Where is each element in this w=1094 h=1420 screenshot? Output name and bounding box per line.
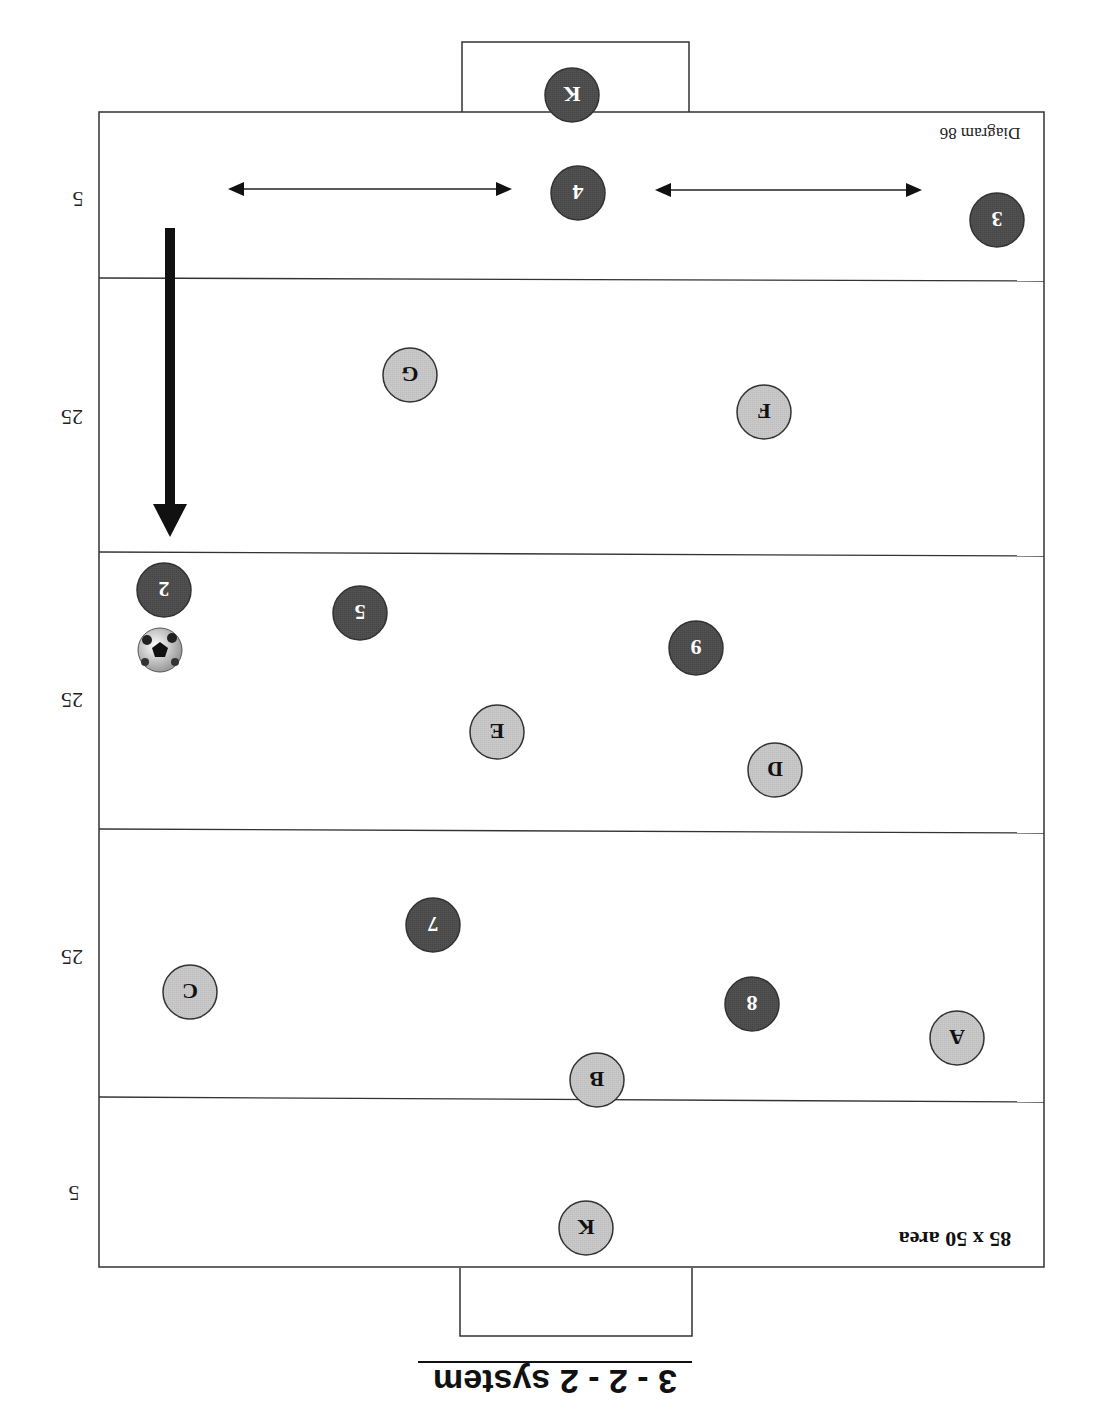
dark-player-4: 4 <box>551 166 605 220</box>
light-player-d: D <box>748 743 802 797</box>
zone-line-4 <box>99 1097 1044 1102</box>
player-label: 7 <box>428 912 439 937</box>
bottom-goal <box>460 1268 692 1336</box>
light-player-k: K <box>559 1201 613 1255</box>
player-label: A <box>949 1025 965 1050</box>
player-label: F <box>757 399 770 424</box>
player-label: K <box>577 1215 594 1240</box>
area-size-label: 85 x 50 area <box>899 1227 1012 1252</box>
zone-label-25-c: 25 <box>61 945 83 970</box>
player-label: 3 <box>992 207 1003 232</box>
zone-label-5-top: 5 <box>73 187 84 212</box>
player-label: B <box>589 1067 604 1092</box>
soccer-field-diagram: 5 25 25 25 5 Diagram 86 85 x 50 area 3 -… <box>0 0 1094 1420</box>
player-label: E <box>490 719 505 744</box>
dark-team: K4325978 <box>137 68 1024 1031</box>
double-arrow-left <box>228 182 512 196</box>
dark-player-9: 9 <box>669 621 723 675</box>
player-label: C <box>182 979 198 1004</box>
light-player-f: F <box>737 385 791 439</box>
light-player-a: A <box>930 1011 984 1065</box>
zone-label-25-a: 25 <box>61 405 83 430</box>
player-label: 8 <box>747 991 758 1016</box>
player-label: 5 <box>355 600 366 625</box>
zone-label-25-b: 25 <box>61 688 83 713</box>
player-label: G <box>401 362 418 387</box>
dark-player-k: K <box>545 68 599 122</box>
dark-player-7: 7 <box>406 898 460 952</box>
diagram-title: 3 - 2 - 2 system <box>433 1363 677 1401</box>
dark-player-5: 5 <box>333 586 387 640</box>
run-arrow <box>153 228 187 537</box>
player-label: 9 <box>691 635 702 660</box>
light-player-b: B <box>570 1053 624 1107</box>
light-player-c: C <box>163 965 217 1019</box>
double-arrow-right <box>655 183 922 197</box>
light-player-g: G <box>383 348 437 402</box>
player-label: K <box>563 82 580 107</box>
player-label: 4 <box>573 180 584 205</box>
diagram-number-label: Diagram 86 <box>940 124 1021 143</box>
zone-line-3 <box>99 829 1044 833</box>
player-label: D <box>767 757 783 782</box>
dark-player-2: 2 <box>137 563 191 617</box>
light-team: GFEDCABK <box>163 348 984 1255</box>
field-boundary <box>99 112 1044 1267</box>
soccer-ball-icon <box>138 628 182 672</box>
zone-dividers <box>99 278 1044 1102</box>
dark-player-8: 8 <box>725 977 779 1031</box>
zone-label-5-bottom: 5 <box>69 1181 80 1206</box>
zone-line-2 <box>99 552 1044 556</box>
player-label: 2 <box>159 577 170 602</box>
zone-line-1 <box>99 278 1044 281</box>
light-player-e: E <box>470 705 524 759</box>
dark-player-3: 3 <box>970 193 1024 247</box>
